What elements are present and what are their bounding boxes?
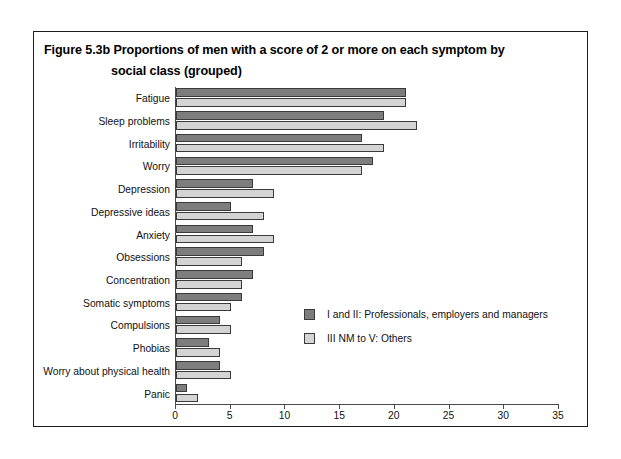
chart-row: Depressive ideas bbox=[175, 201, 558, 224]
x-axis-tick-label-30: 30 bbox=[483, 410, 523, 421]
bar-fatigue-series-1 bbox=[176, 98, 406, 107]
category-label-phobias: Phobias bbox=[133, 343, 170, 354]
x-axis-tick-25 bbox=[449, 404, 450, 409]
bar-concentration-series-0 bbox=[176, 270, 253, 279]
legend-label-0: I and II: Professionals, employers and m… bbox=[327, 309, 548, 320]
category-label-depressive-ideas: Depressive ideas bbox=[91, 206, 170, 217]
x-axis-tick-label-25: 25 bbox=[429, 410, 469, 421]
bar-depressive-ideas-series-0 bbox=[176, 202, 231, 211]
category-label-worry: Worry bbox=[143, 161, 170, 172]
bar-panic-series-0 bbox=[176, 384, 187, 393]
x-axis-tick-label-5: 5 bbox=[210, 410, 250, 421]
bar-anxiety-series-0 bbox=[176, 225, 253, 234]
category-label-sleep-problems: Sleep problems bbox=[98, 116, 170, 127]
bar-phobias-series-0 bbox=[176, 338, 209, 347]
category-label-compulsions: Compulsions bbox=[110, 320, 170, 331]
category-label-worry-about-physical-health: Worry about physical health bbox=[43, 365, 170, 376]
bar-somatic-symptoms-series-1 bbox=[176, 303, 231, 312]
chart-legend: I and II: Professionals, employers and m… bbox=[304, 302, 548, 350]
x-axis-tick-20 bbox=[394, 404, 395, 409]
bar-depressive-ideas-series-1 bbox=[176, 212, 264, 221]
chart-title-line-2: social class (grouped) bbox=[44, 61, 579, 82]
category-label-panic: Panic bbox=[144, 388, 170, 399]
chart-row: Worry bbox=[175, 155, 558, 178]
category-label-depression: Depression bbox=[118, 184, 170, 195]
bar-compulsions-series-0 bbox=[176, 316, 220, 325]
x-axis-tick-15 bbox=[339, 404, 340, 409]
legend-label-1: III NM to V: Others bbox=[327, 333, 412, 344]
bar-obsessions-series-1 bbox=[176, 257, 242, 266]
bar-depression-series-1 bbox=[176, 189, 274, 198]
bar-fatigue-series-0 bbox=[176, 88, 406, 97]
chart-row: Worry about physical health bbox=[175, 360, 558, 383]
bar-phobias-series-1 bbox=[176, 348, 220, 357]
chart-row: Concentration bbox=[175, 269, 558, 292]
chart-row: Fatigue bbox=[175, 87, 558, 110]
bar-somatic-symptoms-series-0 bbox=[176, 293, 242, 302]
chart-row: Anxiety bbox=[175, 223, 558, 246]
bar-depression-series-0 bbox=[176, 179, 253, 188]
x-axis-tick-label-0: 0 bbox=[155, 410, 195, 421]
figure-root: Figure 5.3b Proportions of men with a sc… bbox=[0, 0, 621, 459]
bar-worry-about-physical-health-series-1 bbox=[176, 371, 231, 380]
chart-row: Sleep problems bbox=[175, 110, 558, 133]
category-label-anxiety: Anxiety bbox=[136, 229, 170, 240]
bar-sleep-problems-series-0 bbox=[176, 111, 384, 120]
bar-irritability-series-0 bbox=[176, 134, 362, 143]
bar-concentration-series-1 bbox=[176, 280, 242, 289]
x-axis-tick-10 bbox=[284, 404, 285, 409]
x-axis-tick-label-20: 20 bbox=[374, 410, 414, 421]
x-axis-tick-label-15: 15 bbox=[319, 410, 359, 421]
x-axis-tick-35 bbox=[558, 404, 559, 409]
x-axis-tick-0 bbox=[175, 404, 176, 409]
legend-swatch-1 bbox=[304, 333, 315, 344]
chart-title-line-1: Figure 5.3b Proportions of men with a sc… bbox=[44, 43, 505, 57]
chart-row: Irritability bbox=[175, 132, 558, 155]
bar-panic-series-1 bbox=[176, 394, 198, 403]
bar-irritability-series-1 bbox=[176, 144, 384, 153]
category-label-concentration: Concentration bbox=[106, 275, 170, 286]
bar-worry-series-1 bbox=[176, 166, 362, 175]
legend-entry-0: I and II: Professionals, employers and m… bbox=[304, 302, 548, 326]
plot-area: FatigueSleep problemsIrritabilityWorryDe… bbox=[175, 87, 558, 405]
chart-title: Figure 5.3b Proportions of men with a sc… bbox=[44, 40, 579, 82]
legend-swatch-0 bbox=[304, 309, 315, 320]
x-axis-tick-5 bbox=[230, 404, 231, 409]
bar-worry-about-physical-health-series-0 bbox=[176, 361, 220, 370]
category-label-fatigue: Fatigue bbox=[136, 93, 170, 104]
x-axis-tick-30 bbox=[503, 404, 504, 409]
bar-worry-series-0 bbox=[176, 157, 373, 166]
x-axis-tick-label-10: 10 bbox=[264, 410, 304, 421]
category-label-obsessions: Obsessions bbox=[116, 252, 170, 263]
chart-row: Obsessions bbox=[175, 246, 558, 269]
bar-obsessions-series-0 bbox=[176, 247, 264, 256]
legend-entry-1: III NM to V: Others bbox=[304, 326, 548, 350]
category-label-somatic-symptoms: Somatic symptoms bbox=[83, 297, 170, 308]
chart-row: Depression bbox=[175, 178, 558, 201]
bar-sleep-problems-series-1 bbox=[176, 121, 417, 130]
x-axis-tick-label-35: 35 bbox=[538, 410, 578, 421]
bar-compulsions-series-1 bbox=[176, 325, 231, 334]
chart-row: Panic bbox=[175, 382, 558, 405]
bar-anxiety-series-1 bbox=[176, 235, 274, 244]
category-label-irritability: Irritability bbox=[129, 138, 170, 149]
